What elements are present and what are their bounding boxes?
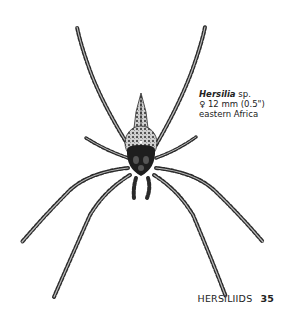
leg-second-right	[156, 137, 196, 158]
page-number: 35	[260, 293, 274, 304]
region-line: eastern Africa	[199, 109, 265, 119]
leg-front-left	[77, 27, 128, 145]
leg-second-left	[86, 138, 128, 158]
spider-illustration	[0, 0, 288, 316]
pedipalps	[134, 178, 150, 198]
leg-front-right	[156, 27, 205, 145]
species-caption: Hersilia sp. ♀ 12 mm (0.5") eastern Afri…	[199, 89, 265, 119]
size-line: ♀ 12 mm (0.5")	[199, 99, 265, 109]
page-footer: HERSILIIDS35	[198, 293, 274, 304]
cephalothorax	[127, 145, 155, 176]
female-symbol-icon: ♀	[199, 99, 205, 109]
size-value: 12 mm (0.5")	[208, 99, 265, 109]
genus-name: Hersilia	[199, 89, 236, 99]
leg-third-left	[22, 168, 128, 242]
leg-third-right	[156, 168, 263, 242]
family-name: HERSILIIDS	[198, 293, 253, 304]
species-name-line: Hersilia sp.	[199, 89, 265, 99]
species-suffix: sp.	[236, 89, 251, 99]
